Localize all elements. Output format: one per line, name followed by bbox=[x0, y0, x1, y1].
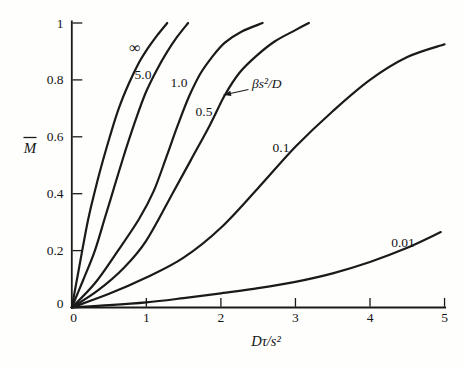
x-axis-title: Dτ/s² bbox=[250, 333, 281, 349]
y-tick-label: 0.8 bbox=[47, 72, 64, 87]
y-axis-title: M bbox=[23, 140, 38, 156]
annotation-parameter-label: βs²/D bbox=[251, 76, 282, 91]
curve-label-0.5: 0.5 bbox=[196, 104, 213, 119]
figure-canvas: 01234500.20.40.60.81∞5.01.00.50.10.01βs²… bbox=[0, 0, 464, 367]
curve-1.0 bbox=[72, 23, 263, 308]
curve-0.01 bbox=[72, 232, 441, 307]
y-tick-label: 0.2 bbox=[47, 243, 64, 258]
y-tick-label: 0.4 bbox=[47, 186, 64, 201]
x-tick-label: 3 bbox=[292, 310, 299, 325]
curve-∞ bbox=[72, 23, 167, 308]
curve-label-1.0: 1.0 bbox=[171, 75, 188, 90]
x-tick-label: 4 bbox=[367, 310, 374, 325]
x-tick-label: 5 bbox=[441, 310, 448, 325]
x-tick-label: 1 bbox=[143, 310, 150, 325]
y-tick-label: 1 bbox=[57, 16, 64, 31]
x-tick-label: 2 bbox=[218, 310, 225, 325]
y-tick-label: 0.6 bbox=[47, 129, 64, 144]
x-tick-label: 0 bbox=[70, 310, 77, 325]
diffusion-uptake-chart: 01234500.20.40.60.81∞5.01.00.50.10.01βs²… bbox=[0, 0, 464, 367]
curve-label-0.01: 0.01 bbox=[391, 235, 415, 250]
curve-label-∞: ∞ bbox=[129, 39, 140, 56]
y-tick-label: 0 bbox=[57, 296, 64, 311]
curve-label-0.1: 0.1 bbox=[273, 140, 290, 155]
curve-label-5.0: 5.0 bbox=[135, 67, 152, 82]
